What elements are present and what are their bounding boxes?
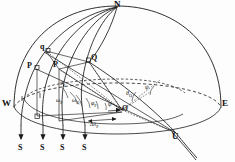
label-theta-p: θP bbox=[60, 80, 65, 88]
label-origin: O bbox=[122, 105, 128, 113]
label-omega-p: ωP bbox=[56, 97, 63, 105]
south-arrow-shaft-1 bbox=[18, 125, 23, 140]
label-theta-q: θQ bbox=[126, 90, 132, 98]
label-south-3: S bbox=[60, 144, 64, 152]
label-point-q: Q bbox=[91, 54, 97, 62]
label-phi-p: φP bbox=[91, 100, 97, 108]
great-circle-nqu bbox=[89, 7, 176, 133]
great-circle-nqu-tail bbox=[176, 133, 197, 158]
south-arrow-group bbox=[18, 125, 87, 140]
omega-q-sub: Q bbox=[76, 100, 79, 105]
south-arrow-shaft-3 bbox=[60, 125, 65, 140]
label-south-4: S bbox=[82, 144, 86, 152]
diagram-canvas bbox=[0, 0, 235, 162]
theta-p-sub: P bbox=[63, 83, 65, 88]
label-east: E bbox=[222, 99, 228, 108]
sphere-outline bbox=[14, 6, 221, 107]
label-psi-lower: ψ bbox=[108, 101, 112, 109]
label-point-p-prime: P bbox=[27, 62, 32, 70]
label-psi-upper: ψ bbox=[145, 84, 149, 92]
phi-p-sub: P bbox=[94, 103, 96, 108]
label-point-q-upper: q bbox=[40, 43, 44, 51]
label-delta-lambda-p: ΔλP bbox=[90, 121, 98, 129]
label-omega-q: ωQ bbox=[72, 97, 79, 105]
psi-upper-glyph: ψ bbox=[145, 84, 149, 90]
theta-q-sub: Q bbox=[129, 93, 132, 98]
label-point-p: P bbox=[53, 61, 58, 69]
label-south-1: S bbox=[18, 144, 22, 152]
delta-lambda-sub: P bbox=[96, 124, 98, 129]
south-arrow-shaft-2 bbox=[40, 125, 45, 140]
celestial-sphere-figure: N W E U q P P Q O θP ωP ωQ φP ψ θQ ψ ΔλP… bbox=[0, 0, 235, 162]
label-north: N bbox=[114, 0, 121, 9]
label-zenith-u: U bbox=[172, 132, 179, 141]
label-west: W bbox=[2, 99, 11, 108]
psi-lower-glyph: ψ bbox=[108, 101, 112, 107]
label-south-2: S bbox=[40, 144, 44, 152]
omega-p-sub: P bbox=[60, 100, 62, 105]
parallel-circle-front bbox=[24, 99, 183, 124]
